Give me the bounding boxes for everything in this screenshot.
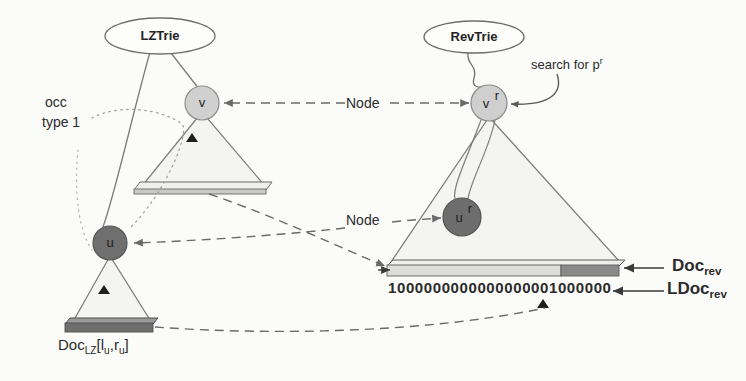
ldoc-rev-bitstring: 1000000000000000001000000 — [388, 279, 612, 296]
occ-type-label-line2: type 1 — [42, 114, 80, 130]
lztrie-label: LZTrie — [140, 28, 179, 43]
diagram-canvas: LZTrie RevTrie v u v r u r occ type 1 No… — [0, 0, 746, 381]
ldoc-rev-label: LDocrev — [667, 279, 727, 302]
search-for-text: search for p — [531, 57, 600, 72]
lztrie-subtree-triangle-u — [74, 256, 150, 320]
doc-lz-to-ldoc-rev-arrow — [155, 308, 545, 331]
revtrie-edge-to-vr — [468, 53, 484, 87]
node-u: u — [93, 226, 127, 260]
occ-type-1-dotted-curve-2 — [77, 150, 92, 250]
doc-lz-text: Doc — [58, 336, 85, 353]
lztrie-outline-right — [171, 53, 199, 89]
lztrie-subtree-triangle-v — [142, 112, 265, 186]
node-label-bottom: Node — [346, 212, 379, 228]
revtrie-label: RevTrie — [451, 29, 498, 44]
node-vr-label: v — [483, 96, 490, 111]
lztrie-outline-left — [103, 52, 150, 227]
node-v-label: v — [199, 95, 206, 110]
node-vr: v r — [471, 85, 507, 121]
node-vr-superscript: r — [495, 88, 500, 103]
doc-lz-comma: ,r — [110, 336, 119, 353]
ldoc-rev-subscript: rev — [710, 288, 727, 300]
doc-lz-range-bar-top — [134, 182, 272, 194]
search-for-label: search for pr — [531, 56, 603, 73]
doc-rev-subscript: rev — [704, 265, 721, 277]
node-v: v — [185, 86, 219, 120]
ldoc-rev-position-marker — [537, 299, 549, 308]
ldoc-rev-text: LDoc — [667, 279, 710, 298]
doc-rev-text: Doc — [672, 256, 704, 275]
search-for-arrow — [511, 74, 559, 104]
search-for-superscript: r — [600, 56, 603, 66]
doc-lz-bracket-close: ] — [125, 336, 129, 353]
doc-lz-range-label: DocLZ[lu,ru] — [58, 336, 129, 357]
revtrie-subtree-triangle-vr — [391, 117, 620, 262]
doc-rev-bar — [387, 260, 625, 276]
doc-rev-label: Docrev — [672, 256, 721, 279]
diagram-vector-layer: LZTrie RevTrie v u v r u r — [0, 0, 746, 381]
doc-lz-bar — [65, 318, 158, 332]
node-ur-label: u — [455, 210, 462, 225]
node-ur-superscript: r — [468, 201, 473, 216]
node-u-label: u — [106, 235, 113, 250]
node-label-top: Node — [346, 95, 379, 111]
node-ur: u r — [443, 198, 481, 236]
occ-type-label-line1: occ — [45, 94, 67, 110]
doc-lz-top-to-doc-rev-arrow — [209, 194, 385, 266]
doc-lz-subscript: LZ — [85, 345, 97, 356]
doc-lz-bracket-open: [l — [97, 336, 105, 353]
